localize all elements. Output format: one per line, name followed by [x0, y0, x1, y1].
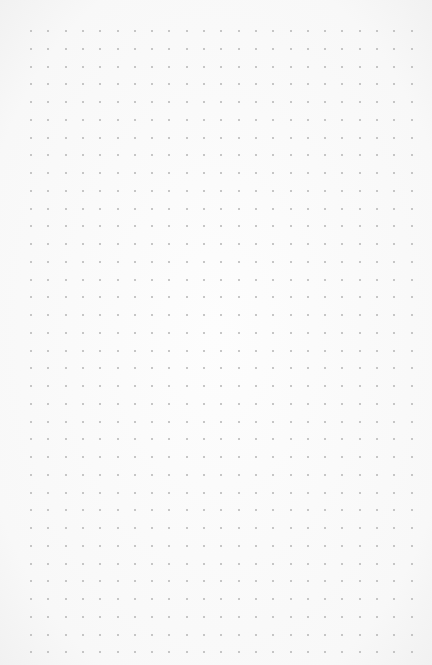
- grid-dot: [186, 154, 188, 156]
- grid-dot: [411, 30, 413, 32]
- grid-dot: [238, 30, 240, 32]
- grid-dot: [30, 598, 32, 600]
- grid-dot: [47, 83, 49, 85]
- grid-dot: [65, 225, 67, 227]
- grid-dot: [186, 279, 188, 281]
- grid-dot: [203, 563, 205, 565]
- grid-dot: [151, 367, 153, 369]
- grid-dot: [411, 314, 413, 316]
- grid-dot: [47, 509, 49, 511]
- grid-dot: [411, 119, 413, 121]
- grid-dot: [272, 456, 274, 458]
- grid-dot: [307, 30, 309, 32]
- grid-dot: [117, 350, 119, 352]
- grid-dot: [290, 48, 292, 50]
- grid-dot: [411, 385, 413, 387]
- grid-dot: [65, 438, 67, 440]
- grid-dot: [151, 492, 153, 494]
- grid-dot: [376, 314, 378, 316]
- grid-dot: [203, 225, 205, 227]
- grid-dot: [307, 474, 309, 476]
- grid-dot: [290, 83, 292, 85]
- grid-dot: [238, 154, 240, 156]
- grid-dot: [272, 598, 274, 600]
- grid-dot: [376, 48, 378, 50]
- grid-dot: [203, 527, 205, 529]
- grid-dot: [411, 101, 413, 103]
- grid-dot: [47, 598, 49, 600]
- grid-dot: [393, 101, 395, 103]
- grid-dot: [134, 350, 136, 352]
- grid-dot: [359, 243, 361, 245]
- grid-dot: [411, 598, 413, 600]
- grid-dot: [272, 634, 274, 636]
- grid-dot: [203, 367, 205, 369]
- grid-dot: [393, 30, 395, 32]
- grid-dot: [186, 474, 188, 476]
- grid-dot: [255, 296, 257, 298]
- grid-dot: [290, 509, 292, 511]
- grid-dot: [393, 350, 395, 352]
- grid-dot: [117, 616, 119, 618]
- grid-dot: [324, 421, 326, 423]
- grid-dot: [341, 350, 343, 352]
- grid-dot: [99, 119, 101, 121]
- grid-dot: [168, 492, 170, 494]
- grid-dot: [47, 580, 49, 582]
- grid-dot: [272, 314, 274, 316]
- grid-dot: [238, 421, 240, 423]
- grid-dot: [30, 509, 32, 511]
- grid-dot: [47, 137, 49, 139]
- grid-dot: [376, 190, 378, 192]
- grid-dot: [376, 385, 378, 387]
- grid-dot: [290, 154, 292, 156]
- grid-dot: [376, 101, 378, 103]
- grid-dot: [134, 580, 136, 582]
- grid-dot: [168, 598, 170, 600]
- grid-dot: [65, 208, 67, 210]
- grid-dot: [290, 296, 292, 298]
- grid-dot: [393, 580, 395, 582]
- grid-dot: [134, 332, 136, 334]
- grid-dot: [82, 580, 84, 582]
- grid-dot: [30, 137, 32, 139]
- grid-dot: [117, 580, 119, 582]
- grid-dot: [47, 279, 49, 281]
- grid-dot: [151, 208, 153, 210]
- grid-dot: [411, 190, 413, 192]
- grid-dot: [117, 332, 119, 334]
- grid-dot: [151, 154, 153, 156]
- grid-dot: [134, 456, 136, 458]
- grid-dot: [238, 367, 240, 369]
- grid-dot: [220, 367, 222, 369]
- grid-dot: [99, 279, 101, 281]
- grid-dot: [393, 367, 395, 369]
- grid-dot: [151, 545, 153, 547]
- grid-dot: [82, 48, 84, 50]
- grid-dot: [47, 66, 49, 68]
- grid-dot: [393, 279, 395, 281]
- grid-dot: [324, 456, 326, 458]
- grid-dot: [168, 314, 170, 316]
- grid-dot: [99, 332, 101, 334]
- grid-dot: [255, 474, 257, 476]
- grid-dot: [47, 296, 49, 298]
- grid-dot: [238, 296, 240, 298]
- grid-dot: [307, 208, 309, 210]
- grid-dot: [203, 385, 205, 387]
- grid-dot: [47, 385, 49, 387]
- grid-dot: [134, 261, 136, 263]
- grid-dot: [47, 350, 49, 352]
- grid-dot: [203, 101, 205, 103]
- grid-dot: [238, 616, 240, 618]
- grid-dot: [411, 350, 413, 352]
- grid-dot: [272, 48, 274, 50]
- grid-dot: [99, 580, 101, 582]
- grid-dot: [65, 296, 67, 298]
- grid-dot: [272, 261, 274, 263]
- grid-dot: [359, 48, 361, 50]
- grid-dot: [151, 385, 153, 387]
- grid-dot: [411, 438, 413, 440]
- grid-dot: [411, 634, 413, 636]
- grid-dot: [99, 243, 101, 245]
